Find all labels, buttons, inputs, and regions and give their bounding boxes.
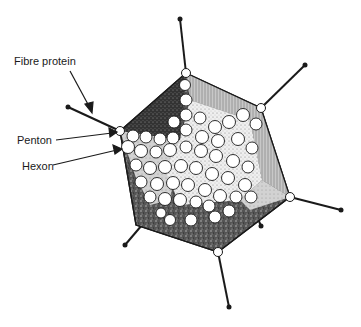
capsid-diagram: Fibre protein Penton Hexon (0, 0, 361, 327)
dark-face (120, 73, 186, 140)
penton-label: Penton (17, 135, 52, 146)
capsid-faces (120, 73, 290, 252)
fibre-protein-label: Fibre protein (14, 56, 76, 67)
label-arrows (53, 71, 122, 165)
hexon-label: Hexon (22, 161, 54, 172)
